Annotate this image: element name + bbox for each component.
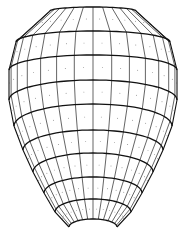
panel-dot bbox=[49, 200, 50, 201]
panel-dot bbox=[102, 43, 103, 44]
panel-dot bbox=[84, 117, 85, 118]
panel-dot bbox=[169, 106, 170, 107]
panel-dot bbox=[51, 197, 52, 198]
panel-dot bbox=[114, 142, 115, 143]
panel-dot bbox=[49, 95, 50, 96]
panel-dot bbox=[16, 106, 17, 107]
panel-dot bbox=[66, 213, 67, 214]
panel-dot bbox=[99, 165, 100, 166]
panel-dot bbox=[56, 194, 57, 195]
panel-dot bbox=[148, 150, 149, 151]
panel-dot bbox=[71, 142, 72, 143]
panel-dot bbox=[100, 141, 101, 142]
balloon-diagram bbox=[0, 0, 182, 233]
panel-dot bbox=[101, 117, 102, 118]
panel-dot bbox=[36, 24, 37, 25]
panel-dot bbox=[29, 126, 30, 127]
panel-dot bbox=[156, 126, 157, 127]
panel-dot bbox=[89, 209, 90, 210]
panel-dot bbox=[117, 118, 118, 119]
panel-dot bbox=[19, 135, 20, 136]
panel-dot bbox=[119, 43, 120, 44]
panel-dot bbox=[58, 144, 59, 145]
panel-dot bbox=[163, 131, 164, 132]
panel-dot bbox=[62, 192, 63, 193]
panel-dot bbox=[75, 166, 76, 167]
panel-dot bbox=[107, 188, 108, 189]
panel-dot bbox=[71, 212, 72, 213]
meridian-lines bbox=[9, 7, 177, 227]
panel-dot bbox=[157, 158, 158, 159]
panel-dot bbox=[86, 19, 87, 20]
panel-dot bbox=[174, 110, 175, 111]
panel-dot bbox=[169, 51, 170, 52]
panel-dot bbox=[13, 79, 14, 80]
panel-dot bbox=[61, 20, 62, 21]
panel-dot bbox=[46, 173, 47, 174]
panel-dot bbox=[69, 190, 70, 191]
panel-dot bbox=[129, 194, 130, 195]
panel-dot bbox=[88, 188, 89, 189]
panel-dot bbox=[13, 54, 14, 55]
panel-dot bbox=[33, 25, 34, 26]
panel-dot bbox=[83, 67, 84, 68]
panel-dot bbox=[84, 43, 85, 44]
panel-dot bbox=[149, 24, 150, 25]
panel-dot bbox=[123, 218, 124, 219]
panel-dot bbox=[120, 68, 121, 69]
panel-dot bbox=[63, 216, 64, 217]
panel-dot bbox=[150, 98, 151, 99]
panel-dot bbox=[112, 19, 113, 20]
panel-dot bbox=[24, 101, 25, 102]
panel-dot bbox=[116, 190, 117, 191]
panel-dot bbox=[111, 166, 112, 167]
panel-dot bbox=[97, 188, 98, 189]
panel-dot bbox=[149, 46, 150, 47]
panel-dot bbox=[66, 43, 67, 44]
panel-dot bbox=[96, 209, 97, 210]
panel-dot bbox=[109, 210, 110, 211]
panel-dot bbox=[62, 218, 63, 219]
panel-dot bbox=[172, 79, 173, 80]
panel-dot bbox=[38, 150, 39, 151]
panel-dot bbox=[136, 200, 137, 201]
panel-dot bbox=[76, 210, 77, 211]
panel-dot bbox=[135, 45, 136, 46]
panel-dot bbox=[102, 92, 103, 93]
panel-dot bbox=[50, 21, 51, 22]
panel-dot bbox=[31, 154, 32, 155]
panel-dot bbox=[38, 180, 39, 181]
panel-dot bbox=[154, 154, 155, 155]
meridian-line bbox=[103, 7, 129, 219]
panel-dot bbox=[9, 83, 10, 84]
panel-dot bbox=[152, 72, 153, 73]
panel-dot bbox=[136, 95, 137, 96]
panel-dot bbox=[99, 19, 100, 20]
panel-dot bbox=[53, 120, 54, 121]
panel-dot bbox=[167, 135, 168, 136]
panel-dot bbox=[139, 147, 140, 148]
panel-dot bbox=[73, 19, 74, 20]
panel-dot bbox=[119, 93, 120, 94]
panel-dot bbox=[36, 46, 37, 47]
panel-dot bbox=[103, 209, 104, 210]
panel-dot bbox=[137, 70, 138, 71]
panel-dot bbox=[173, 54, 174, 55]
panel-dot bbox=[68, 118, 69, 119]
panel-dot bbox=[124, 20, 125, 21]
panel-dot bbox=[123, 192, 124, 193]
panel-dot bbox=[114, 212, 115, 213]
panel-dot bbox=[122, 216, 123, 217]
panel-dot bbox=[131, 170, 132, 171]
panel-dot bbox=[122, 167, 123, 168]
panel-dot bbox=[145, 123, 146, 124]
panel-dot bbox=[48, 70, 49, 71]
panel-dot bbox=[78, 188, 79, 189]
panel-dot bbox=[65, 68, 66, 69]
panel-dot bbox=[102, 67, 103, 68]
panel-dot bbox=[162, 101, 163, 102]
panel-dot bbox=[132, 120, 133, 121]
panel-dot bbox=[82, 209, 83, 210]
panel-dot bbox=[147, 180, 148, 181]
panel-dot bbox=[50, 45, 51, 46]
